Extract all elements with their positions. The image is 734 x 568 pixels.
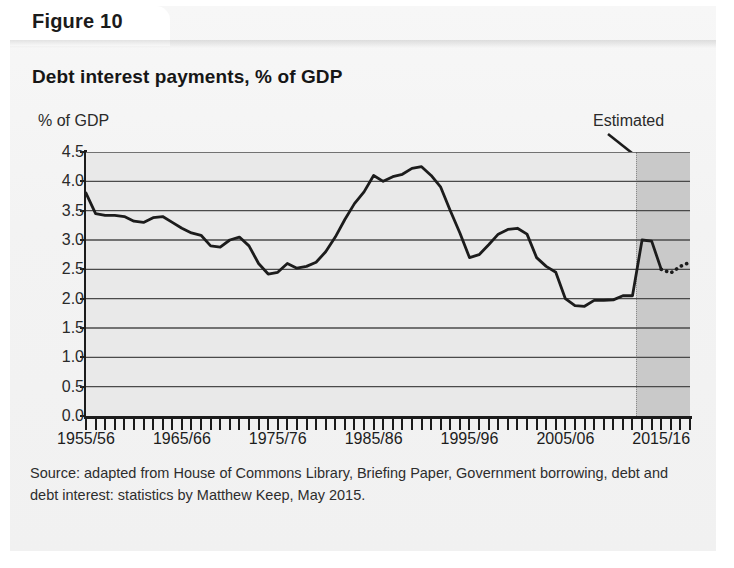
x-axis-tick <box>507 419 509 430</box>
series-line <box>661 262 690 273</box>
x-axis-tick <box>373 419 375 430</box>
x-axis-tick <box>440 419 442 430</box>
x-axis-tick <box>219 419 221 430</box>
x-axis-tick <box>478 419 480 430</box>
x-axis-tick <box>631 419 633 430</box>
x-axis-tick <box>392 419 394 430</box>
x-axis-tick <box>325 419 327 430</box>
x-axis-tick <box>200 419 202 430</box>
y-axis-tick-label: 3.5 <box>40 202 84 220</box>
x-axis-tick <box>210 419 212 430</box>
x-axis-tick <box>421 419 423 430</box>
figure-page: Figure 10 Debt interest payments, % of G… <box>0 0 734 568</box>
x-axis-tick <box>459 419 461 430</box>
x-axis-tick <box>584 419 586 430</box>
x-axis-tick <box>133 419 135 430</box>
y-axis-tick-label: 0.5 <box>40 378 84 396</box>
x-axis-tick-label: 1995/96 <box>441 430 499 448</box>
x-axis-tick <box>315 419 317 430</box>
plot-area <box>86 152 690 416</box>
x-axis-tick <box>286 419 288 430</box>
y-axis-tick-label: 1.5 <box>40 319 84 337</box>
x-axis-tick-label: 2005/06 <box>536 430 594 448</box>
x-axis-tick <box>258 419 260 430</box>
x-axis-tick <box>411 419 413 430</box>
x-axis-tick <box>516 419 518 430</box>
y-axis-tick-label: 3.0 <box>40 231 84 249</box>
x-axis-tick <box>267 419 269 430</box>
x-axis-labels: 1955/561965/661975/761985/861995/962005/… <box>0 430 734 454</box>
y-axis-tick-label: 4.0 <box>40 172 84 190</box>
x-axis-tick <box>306 419 308 430</box>
x-axis-tick-label: 1975/76 <box>249 430 307 448</box>
x-axis-tick <box>555 419 557 430</box>
x-axis-tick <box>430 419 432 430</box>
y-axis-tick-label: 2.0 <box>40 290 84 308</box>
source-note: Source: adapted from House of Commons Li… <box>30 462 670 507</box>
x-axis-tick <box>526 419 528 430</box>
x-axis-ticks <box>86 419 690 430</box>
x-axis-tick <box>449 419 451 430</box>
x-axis-tick <box>248 419 250 430</box>
x-axis-tick <box>593 419 595 430</box>
x-axis-tick <box>353 419 355 430</box>
x-axis-tick <box>229 419 231 430</box>
x-axis-tick <box>468 419 470 430</box>
x-axis-tick-label: 2015/16 <box>632 430 690 448</box>
x-axis-tick-label: 1955/56 <box>57 430 115 448</box>
series-line <box>86 167 661 307</box>
x-axis-tick <box>277 419 279 430</box>
y-axis-tick-label: 2.5 <box>40 260 84 278</box>
y-axis-tick-label: 0.0 <box>40 407 84 425</box>
x-axis-tick <box>641 419 643 430</box>
x-axis-tick <box>95 419 97 430</box>
x-axis-tick <box>85 419 87 430</box>
x-axis-tick-label: 1985/86 <box>345 430 403 448</box>
x-axis-tick <box>670 419 672 430</box>
x-axis-tick <box>114 419 116 430</box>
x-axis-tick <box>488 419 490 430</box>
x-axis-tick <box>382 419 384 430</box>
x-axis-tick <box>152 419 154 430</box>
x-axis-tick <box>162 419 164 430</box>
x-axis-tick <box>574 419 576 430</box>
x-axis-tick <box>536 419 538 430</box>
x-axis-tick <box>104 419 106 430</box>
x-axis-tick <box>679 419 681 430</box>
x-axis-tick <box>181 419 183 430</box>
x-axis-tick <box>545 419 547 430</box>
x-axis-tick <box>612 419 614 430</box>
y-axis-ticks: 0.00.51.01.52.02.53.03.54.04.5 <box>32 152 84 416</box>
x-axis-tick-label: 1965/66 <box>153 430 211 448</box>
x-axis-tick <box>171 419 173 430</box>
x-axis-tick <box>190 419 192 430</box>
x-axis-tick <box>660 419 662 430</box>
x-axis-tick <box>334 419 336 430</box>
y-axis-tick-label: 1.0 <box>40 348 84 366</box>
y-axis-tick-label: 4.5 <box>40 143 84 161</box>
chart-canvas <box>86 152 690 416</box>
x-axis-tick <box>564 419 566 430</box>
chart-title: Debt interest payments, % of GDP <box>32 66 342 88</box>
x-axis-tick <box>622 419 624 430</box>
x-axis-tick <box>143 419 145 430</box>
x-axis-tick <box>651 419 653 430</box>
figure-tab-label: Figure 10 <box>32 10 123 33</box>
y-axis-unit-label: % of GDP <box>38 112 109 130</box>
x-axis-tick <box>296 419 298 430</box>
x-axis-tick <box>238 419 240 430</box>
x-axis-tick <box>123 419 125 430</box>
x-axis-tick <box>689 419 691 430</box>
x-axis-tick <box>344 419 346 430</box>
x-axis-tick <box>363 419 365 430</box>
estimated-annotation-label: Estimated <box>593 112 664 130</box>
x-axis-tick <box>497 419 499 430</box>
x-axis-tick <box>401 419 403 430</box>
x-axis-tick <box>603 419 605 430</box>
